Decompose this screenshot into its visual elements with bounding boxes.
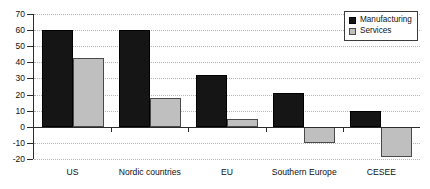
bar-eu-services [227,119,258,127]
bar-us-manufacturing [42,30,73,127]
y-axis-line [33,14,34,159]
y-axis-tick [27,46,33,47]
legend-item-services: Services [349,26,412,37]
bar-eu-manufacturing [196,75,227,127]
zero-baseline [33,127,420,128]
y-axis-tick [27,62,33,63]
y-axis-tick [27,159,33,160]
y-axis-tick-label: 20 [0,91,25,100]
y-axis-tick-label: 50 [0,42,25,51]
manufacturing-swatch-icon [349,17,356,24]
bar-nordic-countries-services [150,98,181,127]
x-axis-tick [266,127,267,132]
y-axis-tick [27,30,33,31]
y-axis-tick-label: 0 [0,123,25,132]
y-axis-tick-label: 30 [0,74,25,83]
x-axis-tick [343,127,344,132]
x-axis-tick [111,127,112,132]
x-axis-label-nordic-countries: Nordic countries [119,168,181,177]
x-axis-tick [188,127,189,132]
x-axis-label-eu: EU [221,168,233,177]
y-axis-tick-label: -10 [0,139,25,148]
y-axis-tick-label: 70 [0,10,25,19]
gridline [34,159,420,160]
legend-label-manufacturing: Manufacturing [360,16,412,24]
bar-cesee-manufacturing [350,111,381,127]
y-axis-tick [27,111,33,112]
y-axis-tick [27,14,33,15]
legend-item-manufacturing: Manufacturing [349,15,412,26]
x-axis-label-cesee: CESEE [367,168,396,177]
chart-legend: Manufacturing Services [344,11,418,41]
y-axis-tick-label: -20 [0,155,25,164]
bar-southern-europe-services [304,127,335,143]
y-axis-tick-label: 40 [0,58,25,67]
bar-cesee-services [381,127,412,158]
x-axis-label-us: US [67,168,79,177]
y-axis-tick [27,78,33,79]
bar-southern-europe-manufacturing [273,93,304,127]
y-axis-tick [27,95,33,96]
legend-label-services: Services [360,27,391,35]
y-axis-tick-label: 10 [0,107,25,116]
services-swatch-icon [349,28,356,35]
bar-nordic-countries-manufacturing [119,30,150,127]
y-axis-tick [27,127,33,128]
y-axis-tick [27,143,33,144]
bar-chart: -20-10010203040506070 USNordic countries… [0,0,430,189]
y-axis-tick-label: 60 [0,26,25,35]
x-axis-label-southern-europe: Southern Europe [272,168,337,177]
bar-us-services [73,58,104,127]
